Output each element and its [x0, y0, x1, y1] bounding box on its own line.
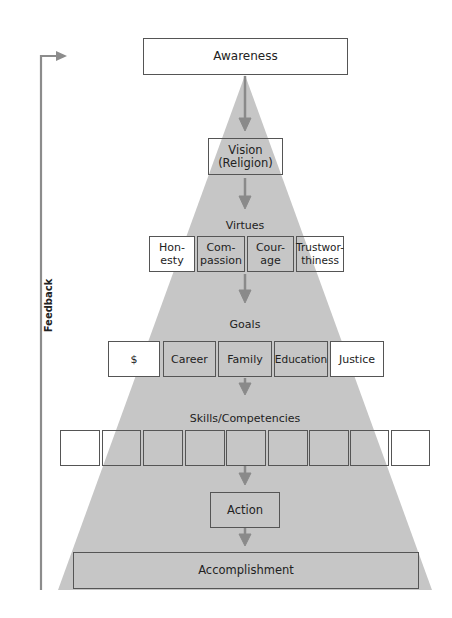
- skill-box: [102, 430, 141, 466]
- vision-sublabel: (Religion): [218, 157, 273, 170]
- goal-box-education: Education: [274, 341, 328, 377]
- vision-box: Vision (Religion): [208, 138, 283, 175]
- virtue-text: Cour-: [256, 241, 285, 254]
- accomplishment-label: Accomplishment: [198, 564, 294, 577]
- virtue-text: Com-: [206, 241, 235, 254]
- vision-label: Vision: [228, 144, 262, 157]
- virtue-text: esty: [160, 254, 183, 267]
- goal-text: Family: [227, 353, 262, 366]
- goal-box-family: Family: [218, 341, 272, 377]
- virtue-box-trustworthiness: Trustwor- thiness: [296, 236, 344, 272]
- goal-box-money: $: [108, 341, 160, 377]
- virtue-text: Trustwor-: [296, 241, 344, 254]
- feedback-label: Feedback: [43, 276, 54, 336]
- skill-box: [268, 430, 308, 466]
- awareness-box: Awareness: [143, 38, 348, 75]
- virtue-text: Hon-: [159, 241, 185, 254]
- virtue-box-compassion: Com- passion: [197, 236, 245, 272]
- awareness-label: Awareness: [213, 50, 277, 63]
- virtue-box-courage: Cour- age: [247, 236, 294, 272]
- goal-text: Career: [171, 353, 208, 366]
- virtue-text: passion: [200, 254, 242, 267]
- skill-box: [60, 430, 100, 466]
- goals-title: Goals: [195, 318, 295, 331]
- action-label: Action: [227, 504, 263, 517]
- skill-box: [391, 430, 430, 466]
- goal-text: Justice: [339, 353, 375, 366]
- skill-box: [226, 430, 266, 466]
- virtue-box-honesty: Hon- esty: [149, 236, 195, 272]
- goal-text: Education: [275, 353, 327, 366]
- diagram-canvas: Feedback Awareness Vision (Religion) Vir…: [0, 0, 452, 618]
- virtue-text: thiness: [301, 254, 339, 267]
- skill-box: [309, 430, 349, 466]
- goal-box-career: Career: [163, 341, 216, 377]
- action-box: Action: [210, 492, 280, 528]
- virtue-text: age: [260, 254, 281, 267]
- skill-box: [185, 430, 225, 466]
- skill-box: [143, 430, 183, 466]
- skill-box: [350, 430, 389, 466]
- virtues-title: Virtues: [195, 219, 295, 232]
- skills-title: Skills/Competencies: [175, 412, 315, 425]
- accomplishment-box: Accomplishment: [73, 552, 419, 589]
- goal-box-justice: Justice: [330, 341, 384, 377]
- goal-text: $: [131, 353, 138, 366]
